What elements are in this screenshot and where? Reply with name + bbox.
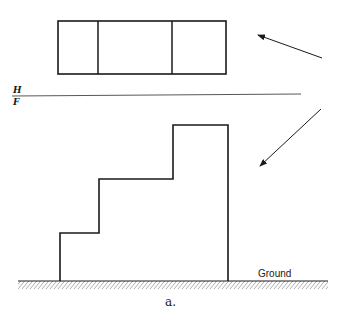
arrow-icon bbox=[260, 109, 321, 166]
fold-line bbox=[12, 94, 301, 96]
ground-hatch bbox=[18, 281, 328, 289]
projection-diagram bbox=[0, 0, 343, 317]
plane-label-h: H bbox=[13, 86, 22, 95]
ground-label: Ground bbox=[258, 268, 291, 279]
arrow-icon bbox=[258, 35, 322, 58]
plane-label-f: F bbox=[13, 98, 19, 107]
top-view bbox=[58, 21, 226, 74]
figure-caption: a. bbox=[165, 295, 176, 309]
front-view-outline bbox=[60, 125, 228, 281]
top-view-outline bbox=[58, 21, 226, 74]
